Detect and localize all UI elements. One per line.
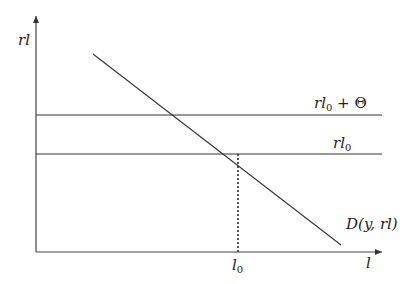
- upper-line-label: rl0 + Θ: [314, 96, 367, 113]
- demand-curve: [93, 54, 341, 245]
- x-tick-label: l0: [232, 258, 243, 275]
- demand-curve-label: D(y, rl): [346, 217, 398, 232]
- diagram-canvas: [0, 0, 417, 284]
- y-axis-label: rl: [18, 33, 30, 48]
- lower-line-label-sub: 0: [345, 142, 351, 153]
- x-axis-label: l: [366, 256, 371, 271]
- lower-line-label: rl0: [333, 136, 351, 153]
- upper-line-label-rest: + Θ: [332, 94, 366, 112]
- x-tick-label-sub: 0: [237, 264, 243, 275]
- lower-line-label-main: rl: [333, 134, 345, 152]
- upper-line-label-main: rl: [314, 94, 326, 112]
